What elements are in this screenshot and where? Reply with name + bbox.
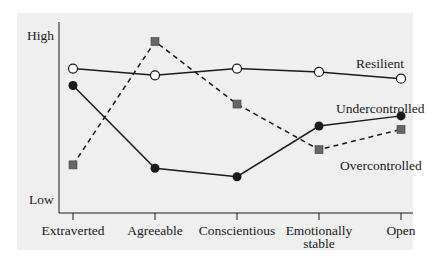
- data-point-undercontrolled: [151, 164, 160, 173]
- data-point-resilient: [69, 64, 78, 73]
- data-point-overcontrolled: [69, 161, 77, 169]
- x-tick-label: stable: [303, 236, 335, 251]
- series-label-overcontrolled: Overcontrolled: [340, 158, 422, 173]
- data-point-resilient: [151, 71, 160, 80]
- data-point-undercontrolled: [69, 81, 78, 90]
- x-tick-label: Extraverted: [42, 223, 105, 238]
- data-point-resilient: [315, 67, 324, 76]
- data-point-overcontrolled: [397, 125, 405, 133]
- data-point-resilient: [233, 64, 242, 73]
- data-point-overcontrolled: [233, 100, 241, 108]
- series-label-resilient: Resilient: [356, 56, 404, 71]
- series-label-undercontrolled: Undercontrolled: [336, 101, 425, 116]
- x-tick-label: Agreeable: [127, 223, 182, 238]
- data-point-overcontrolled: [315, 146, 323, 154]
- y-low-label: Low: [29, 192, 54, 207]
- data-point-undercontrolled: [315, 122, 324, 131]
- y-high-label: High: [27, 28, 54, 43]
- x-tick-label: Conscientious: [199, 223, 276, 238]
- data-point-undercontrolled: [233, 172, 242, 181]
- personality-profile-chart: High Low ExtravertedAgreeableConscientio…: [0, 0, 443, 259]
- x-tick-label: Open: [386, 223, 415, 238]
- data-point-resilient: [397, 74, 406, 83]
- chart-panel: [17, 13, 413, 250]
- data-point-overcontrolled: [151, 38, 159, 46]
